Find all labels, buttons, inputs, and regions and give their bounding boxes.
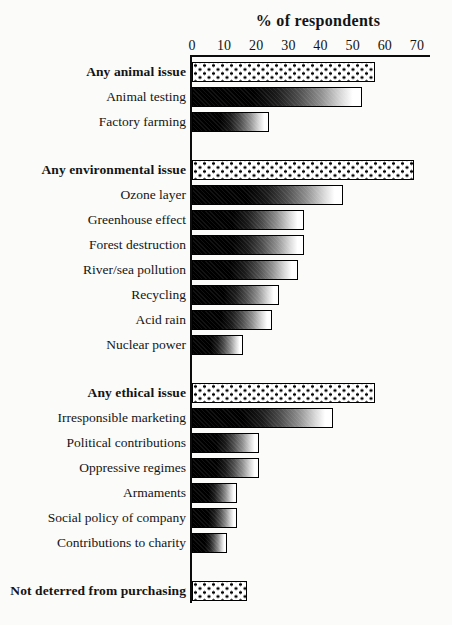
value-bar bbox=[192, 433, 259, 453]
value-bar bbox=[192, 210, 304, 230]
bar-row: Contributions to charity bbox=[0, 533, 452, 553]
x-tick-label-50: 50 bbox=[345, 38, 359, 54]
bar-row: Political contributions bbox=[0, 433, 452, 453]
x-axis-ticks: 010203040506070 bbox=[0, 38, 452, 54]
category-label: Greenhouse effect bbox=[0, 210, 186, 230]
category-label: Ozone layer bbox=[0, 185, 186, 205]
value-bar bbox=[192, 533, 227, 553]
x-tick-label-20: 20 bbox=[249, 38, 263, 54]
category-label: Contributions to charity bbox=[0, 533, 186, 553]
category-label: Oppressive regimes bbox=[0, 458, 186, 478]
category-label: River/sea pollution bbox=[0, 260, 186, 280]
category-label: Social policy of company bbox=[0, 508, 186, 528]
category-label: Animal testing bbox=[0, 87, 186, 107]
value-bar bbox=[192, 185, 343, 205]
bar-row: Social policy of company bbox=[0, 508, 452, 528]
value-bar bbox=[192, 483, 237, 503]
category-label: Acid rain bbox=[0, 310, 186, 330]
bar-row: Any ethical issue bbox=[0, 383, 452, 403]
bar-row: Oppressive regimes bbox=[0, 458, 452, 478]
bar-row: Animal testing bbox=[0, 87, 452, 107]
x-tick-label-40: 40 bbox=[313, 38, 327, 54]
bar-row: Ozone layer bbox=[0, 185, 452, 205]
summary-bar bbox=[192, 581, 247, 601]
value-bar bbox=[192, 87, 362, 107]
category-label: Armaments bbox=[0, 483, 186, 503]
bar-row: River/sea pollution bbox=[0, 260, 452, 280]
value-bar bbox=[192, 112, 269, 132]
x-tick-label-30: 30 bbox=[281, 38, 295, 54]
summary-bar bbox=[192, 62, 375, 82]
value-bar bbox=[192, 285, 279, 305]
category-label: Forest destruction bbox=[0, 235, 186, 255]
bar-chart-figure: % of respondents 010203040506070 Any ani… bbox=[0, 0, 452, 625]
bar-row: Factory farming bbox=[0, 112, 452, 132]
category-label: Recycling bbox=[0, 285, 186, 305]
bar-row: Recycling bbox=[0, 285, 452, 305]
summary-bar bbox=[192, 160, 414, 180]
bar-row: Not deterred from purchasing bbox=[0, 581, 452, 601]
bar-row: Any environmental issue bbox=[0, 160, 452, 180]
bar-row: Greenhouse effect bbox=[0, 210, 452, 230]
x-axis-line bbox=[191, 55, 430, 57]
value-bar bbox=[192, 458, 259, 478]
value-bar bbox=[192, 260, 298, 280]
category-label: Political contributions bbox=[0, 433, 186, 453]
category-label: Any ethical issue bbox=[0, 383, 186, 403]
category-label: Any animal issue bbox=[0, 62, 186, 82]
x-tick-label-0: 0 bbox=[188, 38, 195, 54]
bar-row: Any animal issue bbox=[0, 62, 452, 82]
bar-row: Acid rain bbox=[0, 310, 452, 330]
category-label: Not deterred from purchasing bbox=[0, 581, 186, 601]
value-bar bbox=[192, 310, 272, 330]
bar-row: Forest destruction bbox=[0, 235, 452, 255]
x-tick-label-10: 10 bbox=[217, 38, 231, 54]
category-label: Any environmental issue bbox=[0, 160, 186, 180]
category-label: Factory farming bbox=[0, 112, 186, 132]
bar-row: Armaments bbox=[0, 483, 452, 503]
summary-bar bbox=[192, 383, 375, 403]
value-bar bbox=[192, 408, 333, 428]
bar-row: Irresponsible marketing bbox=[0, 408, 452, 428]
x-tick-label-70: 70 bbox=[410, 38, 424, 54]
bar-row: Nuclear power bbox=[0, 335, 452, 355]
x-tick-label-60: 60 bbox=[378, 38, 392, 54]
category-label: Irresponsible marketing bbox=[0, 408, 186, 428]
category-label: Nuclear power bbox=[0, 335, 186, 355]
value-bar bbox=[192, 235, 304, 255]
value-bar bbox=[192, 335, 243, 355]
value-bar bbox=[192, 508, 237, 528]
chart-title: % of respondents bbox=[256, 12, 381, 30]
